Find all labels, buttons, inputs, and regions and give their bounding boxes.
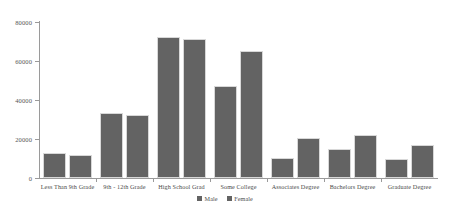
x-axis-tick <box>324 178 325 182</box>
legend-label: Female <box>234 195 253 202</box>
x-axis-tick <box>153 178 154 182</box>
legend-label: Male <box>205 195 218 202</box>
x-axis-line <box>39 178 438 179</box>
bar <box>271 158 294 178</box>
bar <box>385 159 408 178</box>
x-axis-tick <box>96 178 97 182</box>
x-axis-category-label: 9th - 12th Grade <box>103 183 145 190</box>
x-axis-tick <box>210 178 211 182</box>
bar <box>157 37 180 178</box>
x-axis-category-label: Less Than 9th Grade <box>41 183 95 190</box>
bar <box>328 149 351 178</box>
bar <box>240 51 263 178</box>
bar <box>43 153 66 178</box>
chart-legend: MaleFemale <box>0 195 450 202</box>
y-axis-tick <box>35 139 40 140</box>
legend-item[interactable]: Male <box>197 195 218 202</box>
bar <box>214 86 237 178</box>
bar <box>69 155 92 178</box>
x-axis-category-label: Bachelors Degree <box>330 183 376 190</box>
y-axis-tick <box>35 61 40 62</box>
legend-swatch-icon <box>197 196 202 201</box>
legend-swatch-icon <box>227 196 232 201</box>
x-axis-category-label: Graduate Degree <box>388 183 432 190</box>
y-axis-tick-label: 40000 <box>15 96 32 103</box>
x-axis-tick <box>267 178 268 182</box>
y-axis-tick <box>35 100 40 101</box>
bar <box>126 115 149 178</box>
y-axis-tick <box>35 22 40 23</box>
bar <box>411 145 434 178</box>
x-axis-tick <box>381 178 382 182</box>
y-axis-tick <box>35 178 40 179</box>
y-axis-tick-label: 80000 <box>15 18 32 25</box>
y-axis-tick-label: 0 <box>29 175 32 182</box>
x-axis-category-label: Associates Degree <box>272 183 320 190</box>
x-axis-category-label: Some College <box>220 183 256 190</box>
bar <box>100 113 123 178</box>
bar <box>354 135 377 178</box>
x-axis-category-label: High School Grad <box>158 183 205 190</box>
legend-item[interactable]: Female <box>227 195 253 202</box>
y-axis-tick-label: 20000 <box>15 135 32 142</box>
bar-chart: 020000400006000080000 Less Than 9th Grad… <box>0 0 450 212</box>
bar <box>297 138 320 178</box>
y-axis-tick-label: 60000 <box>15 57 32 64</box>
bar <box>183 39 206 178</box>
